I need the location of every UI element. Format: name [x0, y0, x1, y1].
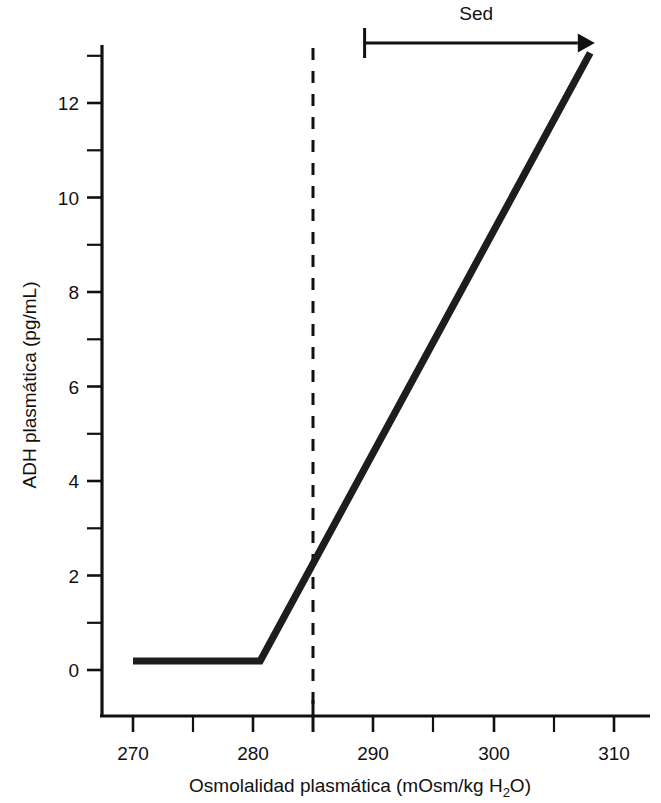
y-axis-major-ticks [87, 103, 102, 670]
sed-annotation: Sed [365, 3, 595, 58]
x-axis-title-pre: Osmolalidad plasmática (mOsm/kg H [189, 775, 503, 796]
x-axis-title-subscript: 2 [503, 785, 510, 800]
y-tick-label-12: 12 [58, 93, 79, 114]
y-tick-label-4: 4 [68, 471, 79, 492]
y-axis-minor-ticks [87, 56, 102, 623]
x-tick-label-310: 310 [598, 743, 630, 764]
x-tick-label-300: 300 [478, 743, 510, 764]
y-tick-label-6: 6 [68, 377, 79, 398]
y-tick-label-2: 2 [68, 566, 79, 587]
sed-annotation-label: Sed [459, 3, 493, 24]
adh-response-line [133, 53, 590, 661]
chart-svg: 0 2 4 6 8 10 12 270 280 290 300 310 Os [0, 0, 661, 803]
sed-range-arrowhead-icon [578, 34, 595, 53]
x-axis-title: Osmolalidad plasmática (mOsm/kg H2O) [189, 775, 531, 800]
y-axis-title: ADH plasmática (pg/mL) [19, 282, 40, 489]
x-tick-label-290: 290 [357, 743, 389, 764]
chart-figure: 0 2 4 6 8 10 12 270 280 290 300 310 Os [0, 0, 661, 803]
y-tick-label-0: 0 [68, 660, 79, 681]
x-tick-label-270: 270 [117, 743, 149, 764]
y-tick-label-8: 8 [68, 282, 79, 303]
y-tick-label-10: 10 [58, 188, 79, 209]
x-axis-major-ticks [133, 716, 614, 732]
x-tick-label-280: 280 [237, 743, 269, 764]
x-axis-title-post: O) [510, 775, 531, 796]
